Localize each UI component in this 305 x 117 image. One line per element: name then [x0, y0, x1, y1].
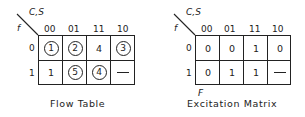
unstable-state: 1 — [48, 67, 54, 78]
row-header: 0 — [186, 43, 192, 53]
col-header: 11 — [249, 24, 260, 34]
col-header: 01 — [224, 24, 235, 34]
matrix-value: 0 — [277, 43, 283, 54]
flow-table-caption: Flow Table — [50, 99, 105, 109]
matrix-value: 0 — [205, 43, 211, 54]
column-variable-label: C,S — [29, 7, 44, 17]
col-header: 11 — [93, 24, 104, 34]
row-header: 0 — [29, 43, 35, 53]
excitation-matrix-grid: 0 0 1 0 0 1 1 — [195, 35, 291, 85]
excitation-matrix-caption: Excitation Matrix — [187, 99, 277, 109]
unstable-state: 4 — [96, 43, 102, 54]
output-variable-label: F — [198, 88, 203, 98]
stable-state: 3 — [116, 41, 131, 56]
row-header: 1 — [186, 68, 192, 78]
column-variable-label: C,S — [186, 7, 201, 17]
row-variable-label: f — [17, 23, 20, 33]
row-header: 1 — [29, 68, 35, 78]
col-header: 00 — [44, 24, 55, 34]
dont-care-dash — [117, 72, 129, 73]
stable-state: 2 — [68, 41, 83, 56]
stable-state: 1 — [44, 41, 59, 56]
dont-care-dash — [274, 72, 286, 73]
row-variable-label: f — [174, 23, 177, 33]
stable-state: 4 — [92, 65, 107, 80]
flow-table-grid: 1 2 4 3 1 5 4 — [38, 35, 135, 85]
col-header: 10 — [272, 24, 283, 34]
matrix-value: 1 — [229, 67, 235, 78]
col-header: 01 — [68, 24, 79, 34]
col-header: 10 — [117, 24, 128, 34]
matrix-value: 1 — [253, 43, 259, 54]
matrix-value: 1 — [253, 67, 259, 78]
matrix-value: 0 — [229, 43, 235, 54]
col-header: 00 — [201, 24, 212, 34]
stable-state: 5 — [68, 65, 83, 80]
matrix-value: 0 — [205, 67, 211, 78]
